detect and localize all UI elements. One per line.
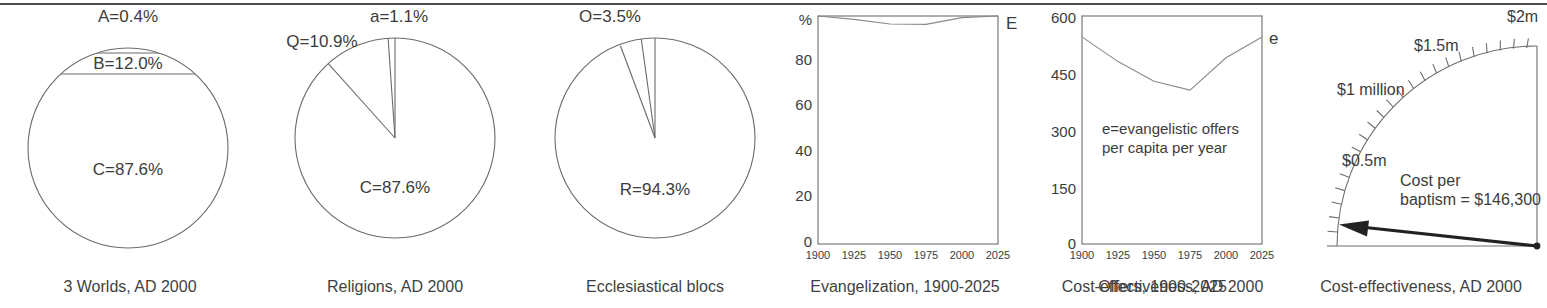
gauge-label-1-million: $1 million — [1337, 81, 1405, 98]
gauge-needle — [1361, 227, 1537, 246]
slice-label-r: R=94.3% — [620, 180, 690, 199]
panel-ecclesiastical-blocs: O=3.5% R=94.3% Ecclesiastical blocs — [530, 0, 780, 308]
three-worlds-pie: A=0.4% B=12.0% C=87.6% — [0, 0, 260, 270]
slice-label-a: A=0.4% — [98, 7, 158, 26]
ytick-label-150: 150 — [1051, 180, 1076, 197]
ytick-label-pct: % — [799, 11, 812, 28]
gauge-label-2m: $2m — [1507, 8, 1538, 25]
ytick-label-600: 600 — [1051, 9, 1076, 26]
panel-caption-three-worlds: 3 Worlds, AD 2000 — [0, 278, 260, 296]
gauge-needle-arrowhead — [1339, 221, 1369, 237]
slice-label-a: a=1.1% — [370, 7, 428, 26]
series-end-label-E: E — [1006, 14, 1017, 33]
offers-note-line2: per capita per year — [1102, 139, 1227, 156]
xtick-label-1900: 1900 — [1070, 249, 1094, 261]
xtick-label-2000: 2000 — [950, 249, 974, 261]
xtick-label-2025: 2025 — [986, 249, 1010, 261]
pie-outline — [28, 48, 228, 248]
gauge-label-0-5m: $0.5m — [1342, 152, 1386, 169]
plot-frame — [818, 16, 998, 244]
xtick-label-2025: 2025 — [1250, 249, 1274, 261]
ytick-label-450: 450 — [1051, 66, 1076, 83]
slice-divider-q-c — [328, 64, 395, 138]
panel-caption-evangelization: Evangelization, 1900-2025 — [780, 278, 1030, 296]
slice-label-c: C=87.6% — [360, 178, 430, 197]
ytick-label-40: 40 — [795, 142, 812, 159]
xtick-label-1975: 1975 — [1178, 249, 1202, 261]
series-line-E — [818, 16, 998, 24]
panel-caption-religions: Religions, AD 2000 — [260, 278, 530, 296]
panel-evangelization: % 80 60 40 20 0 1900 1925 1950 1975 2000… — [780, 0, 1030, 308]
gauge-arc — [1337, 46, 1537, 246]
offers-note-line1: e=evangelistic offers — [1102, 120, 1239, 137]
panel-caption-ecclesiastical-blocs: Ecclesiastical blocs — [530, 278, 780, 296]
slice-divider-a-q — [388, 38, 395, 138]
panel-caption-cost-effectiveness: Cost-effectiveness, AD 2000 — [1295, 278, 1547, 296]
gauge-pivot-dot — [1534, 243, 1541, 250]
slice-divider-2 — [620, 46, 655, 138]
ytick-label-0: 0 — [804, 233, 812, 250]
slice-label-b: B=12.0% — [93, 54, 162, 73]
slice-divider-1 — [641, 39, 655, 138]
xtick-label-1925: 1925 — [1106, 249, 1130, 261]
xtick-label-2000: 2000 — [1214, 249, 1238, 261]
slice-label-o: O=3.5% — [579, 7, 641, 26]
ytick-label-80: 80 — [795, 51, 812, 68]
gauge-note-line2: baptism = $146,300 — [1400, 191, 1541, 208]
xtick-label-1975: 1975 — [914, 249, 938, 261]
ecclesiastical-blocs-pie: O=3.5% R=94.3% — [530, 0, 780, 270]
ytick-label-300: 300 — [1051, 123, 1076, 140]
panel-caption-offers-text: Offers, 1900-2025 — [1030, 278, 1295, 296]
slice-label-c: C=87.6% — [93, 160, 163, 179]
religions-pie: a=1.1% Q=10.9% C=87.6% — [260, 0, 530, 270]
xtick-label-1900: 1900 — [806, 249, 830, 261]
ytick-label-20: 20 — [795, 187, 812, 204]
gauge-tick-marks — [1327, 38, 1528, 246]
panel-religions: a=1.1% Q=10.9% C=87.6% Religions, AD 200… — [260, 0, 530, 308]
figure-strip: A=0.4% B=12.0% C=87.6% 3 Worlds, AD 2000… — [0, 0, 1547, 308]
panel-offers: 600 450 300 150 0 1900 1925 1950 1975 20… — [1030, 0, 1295, 308]
offers-line-chart: 600 450 300 150 0 1900 1925 1950 1975 20… — [1030, 0, 1295, 270]
panel-three-worlds: A=0.4% B=12.0% C=87.6% 3 Worlds, AD 2000 — [0, 0, 260, 308]
cost-effectiveness-gauge: $0.5m $1 million $1.5m $2m Cost per bapt… — [1295, 0, 1547, 270]
series-end-label-e: e — [1269, 29, 1278, 48]
xtick-label-1950: 1950 — [878, 249, 902, 261]
panel-cost-effectiveness: $0.5m $1 million $1.5m $2m Cost per bapt… — [1295, 0, 1547, 308]
series-line-e — [1082, 37, 1262, 90]
xtick-label-1950: 1950 — [1142, 249, 1166, 261]
gauge-note-line1: Cost per — [1400, 172, 1461, 189]
slice-label-q: Q=10.9% — [286, 32, 357, 51]
ytick-label-60: 60 — [795, 96, 812, 113]
xtick-label-1925: 1925 — [842, 249, 866, 261]
gauge-label-1-5m: $1.5m — [1414, 37, 1458, 54]
evangelization-line-chart: % 80 60 40 20 0 1900 1925 1950 1975 2000… — [780, 0, 1030, 270]
